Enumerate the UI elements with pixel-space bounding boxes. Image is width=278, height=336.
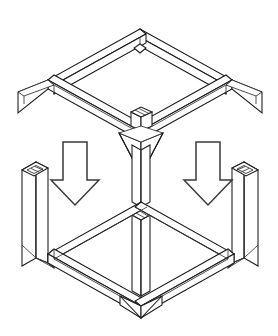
center-post [132, 145, 150, 207]
left-post-front-face [22, 162, 36, 266]
front-post [132, 210, 150, 296]
center-post-left-face [132, 145, 141, 207]
left-assembly-arrow [51, 142, 99, 205]
front-post-left-face [132, 215, 141, 296]
right-post-front-face [244, 162, 258, 266]
diagram-canvas [0, 0, 278, 336]
exploded-assembly-illustration [0, 0, 278, 336]
upper-frame-beam-back-right-top [134, 29, 232, 85]
left-arrow-down-icon [51, 142, 99, 205]
center-post-right-face [141, 145, 150, 207]
left-post-side-face [36, 162, 48, 263]
right-post-side-face [232, 162, 244, 263]
right-assembly-arrow [184, 142, 232, 205]
right-post [232, 162, 258, 266]
left-post [22, 162, 48, 266]
upper-frame-beam-back-left-top [48, 29, 146, 85]
right-arrow-down-icon [184, 142, 232, 205]
front-post-right-face [141, 215, 150, 296]
